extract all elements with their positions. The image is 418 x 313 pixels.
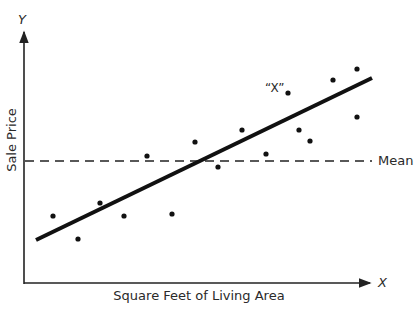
scatter-chart: Y X Sale Price Square Feet of Living Are… bbox=[0, 0, 418, 313]
x-axis-symbol: X bbox=[377, 275, 388, 290]
data-point bbox=[144, 153, 149, 158]
data-points bbox=[50, 66, 359, 241]
data-point bbox=[330, 77, 335, 82]
data-point bbox=[296, 127, 301, 132]
data-point bbox=[169, 211, 174, 216]
data-point bbox=[215, 164, 220, 169]
y-axis-symbol: Y bbox=[18, 12, 27, 27]
data-point bbox=[75, 236, 80, 241]
y-axis-title: Sale Price bbox=[4, 108, 19, 172]
regression-line bbox=[36, 78, 372, 240]
data-point bbox=[121, 213, 126, 218]
data-point bbox=[192, 139, 197, 144]
outlier-point bbox=[285, 90, 290, 95]
data-point bbox=[263, 151, 268, 156]
data-point bbox=[354, 66, 359, 71]
data-point bbox=[307, 138, 312, 143]
mean-label: Mean bbox=[378, 153, 413, 168]
x-axis-title: Square Feet of Living Area bbox=[113, 288, 284, 303]
data-point bbox=[239, 127, 244, 132]
outlier-label: “X” bbox=[265, 81, 284, 95]
data-point bbox=[50, 213, 55, 218]
data-point bbox=[354, 114, 359, 119]
data-point bbox=[97, 200, 102, 205]
